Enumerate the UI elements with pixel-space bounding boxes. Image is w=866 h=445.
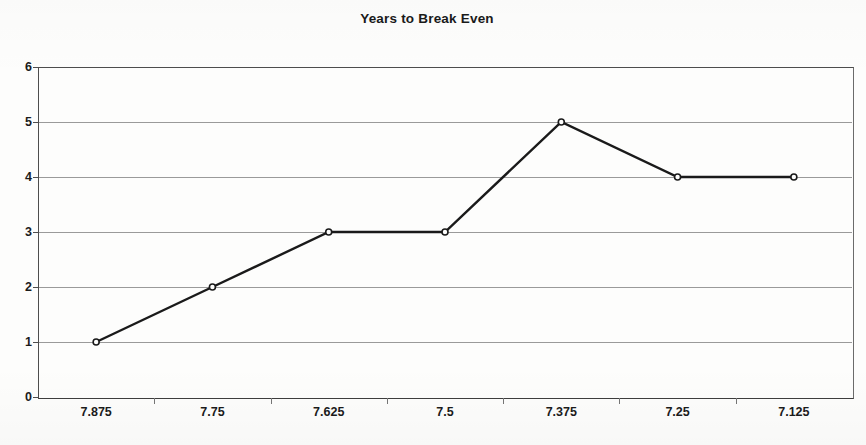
data-point-marker	[791, 174, 797, 180]
y-axis-tick-label: 4	[6, 171, 32, 184]
x-axis-tick-label: 7.25	[623, 406, 733, 419]
x-axis-labels: 7.8757.757.6257.57.3757.257.125	[0, 406, 866, 430]
x-axis-tick-mark	[154, 398, 155, 404]
data-point-marker	[209, 284, 215, 290]
y-axis-tick-label: 2	[6, 281, 32, 294]
data-series-line	[38, 67, 852, 397]
x-axis-tick-mark	[736, 398, 737, 404]
chart-page: Years to Break Even 0123456 7.8757.757.6…	[0, 0, 866, 445]
x-axis-tick-mark	[387, 398, 388, 404]
data-point-marker	[558, 119, 564, 125]
x-axis-tick-label: 7.5	[390, 406, 500, 419]
chart-title: Years to Break Even	[0, 11, 860, 26]
y-axis-labels: 0123456	[0, 67, 32, 397]
y-axis-tick-label: 6	[6, 61, 32, 74]
y-axis-tick-label: 5	[6, 116, 32, 129]
data-point-marker	[675, 174, 681, 180]
x-axis-tick-mark	[619, 398, 620, 404]
x-axis-tick-label: 7.125	[739, 406, 849, 419]
data-point-marker	[442, 229, 448, 235]
x-axis-tick-mark	[271, 398, 272, 404]
data-point-marker	[326, 229, 332, 235]
x-axis-tick-label: 7.625	[274, 406, 384, 419]
x-axis-tick-label: 7.875	[41, 406, 151, 419]
x-axis-tick-mark	[503, 398, 504, 404]
x-axis-tick-label: 7.375	[506, 406, 616, 419]
y-axis-tick-label: 3	[6, 226, 32, 239]
x-axis-tick-label: 7.75	[157, 406, 267, 419]
data-point-marker	[93, 339, 99, 345]
x-axis-tick-marks	[0, 398, 866, 405]
y-axis-tick-label: 1	[6, 336, 32, 349]
